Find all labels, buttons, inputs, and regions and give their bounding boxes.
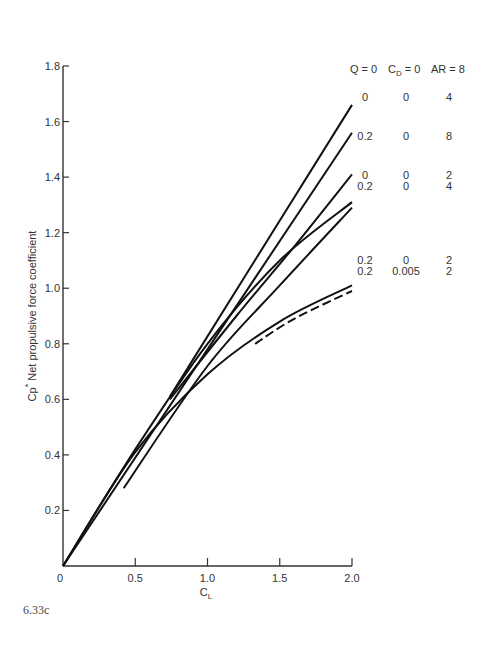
legend-q-value: 0.2 [357,180,372,192]
legend-q-value: 0.2 [357,130,372,142]
series-line [63,202,352,566]
y-tick-label: 0.6 [45,393,60,405]
y-tick-labels: 0.20.40.60.81.01.21.41.61.8 [45,60,60,516]
x-tick-labels: 00.51.01.52.0 [57,572,360,584]
legend-header-cd: CD = 0 [388,63,420,78]
y-tick-label: 1.6 [45,116,60,128]
x-axis-title-sub: L [208,592,213,601]
legend-row: 0.204 [357,180,452,192]
legend-cd-value: 0 [403,180,409,192]
legend-header-q: Q = 0 [350,63,377,75]
legend-q-value: 0.2 [357,265,372,277]
legend-cd-value: 0 [403,91,409,103]
legend-ar-value: 4 [446,180,452,192]
legend-row: 004 [362,91,452,103]
series-line [255,291,352,344]
y-axis-title-main: Cp [26,387,38,401]
series-line [63,133,352,566]
legend-q-value: 0 [362,91,368,103]
x-tick-label: 1.5 [272,572,287,584]
x-tick-label: 0.5 [128,572,143,584]
x-axis-title: CL [200,586,213,601]
x-ticks [135,558,352,566]
chart: 0.20.40.60.81.01.21.41.61.8 00.51.01.52.… [0,0,489,646]
legend-row: 0.208 [357,130,452,142]
axes [63,66,352,566]
series-line [124,208,352,489]
legend-header-cd-rest: = 0 [402,63,421,75]
y-tick-label: 0.8 [45,338,60,350]
legend-row: 0.20.0052 [357,265,452,277]
legend-cd-value: 0.005 [392,265,420,277]
y-tick-label: 0.2 [45,504,60,516]
y-tick-label: 1.4 [45,171,60,183]
series-line [63,285,352,566]
series-layer [63,105,352,566]
y-tick-label: 0.4 [45,449,60,461]
series-line [170,174,352,399]
y-axis-title: Cp* Net propulsive force coefficient [23,231,38,402]
legend-ar-value: 2 [446,265,452,277]
legend-header: Q = 0 CD = 0 AR = 8 [350,63,465,78]
x-tick-label: 2.0 [344,572,359,584]
legend-header-cd-main: C [388,63,396,75]
x-tick-label: 1.0 [200,572,215,584]
y-axis-title-rest: Net propulsive force coefficient [26,231,38,384]
figure-caption: 6.33c [23,603,49,618]
legend-ar-value: 8 [446,130,452,142]
legend-cd-value: 0 [403,130,409,142]
y-ticks [63,66,69,510]
series-line [170,105,352,397]
y-tick-label: 1.8 [45,60,60,72]
x-tick-label: 0 [57,572,63,584]
legend: Q = 0 CD = 0 AR = 8 0040.2080020.2040.20… [350,63,465,277]
y-tick-label: 1.2 [45,227,60,239]
legend-header-ar: AR = 8 [431,63,465,75]
legend-ar-value: 4 [446,91,452,103]
y-tick-label: 1.0 [45,282,60,294]
x-axis-title-main: C [200,586,208,598]
legend-rows: 0040.2080020.2040.2020.20.0052 [357,91,452,277]
